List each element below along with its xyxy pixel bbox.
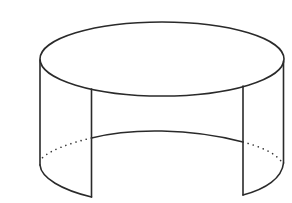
- right-bottom-arc: [243, 163, 284, 195]
- left-hidden-bottom-arc: [41, 138, 92, 159]
- top-rim-ellipse: [40, 22, 284, 96]
- cylinder-band-figure: [0, 0, 292, 203]
- back-bottom-arc: [92, 131, 244, 142]
- diagram-canvas: Line drawing of an open cylindrical band…: [0, 0, 292, 203]
- right-hidden-bottom-arc: [243, 142, 281, 161]
- left-bottom-arc: [40, 165, 92, 197]
